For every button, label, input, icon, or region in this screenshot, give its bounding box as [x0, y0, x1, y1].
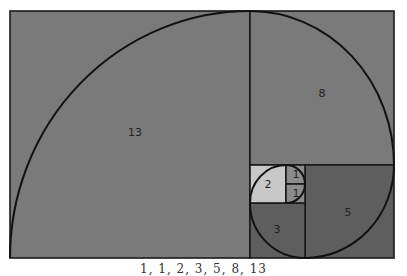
square-label: 1	[293, 187, 300, 200]
sequence-caption: 1, 1, 2, 3, 5, 8, 13	[0, 262, 407, 276]
square-label: 5	[345, 206, 352, 219]
square-label: 13	[128, 126, 142, 139]
square-label: 1	[293, 168, 300, 181]
squares-group	[10, 11, 394, 258]
square-label: 2	[265, 178, 272, 191]
square-label: 3	[274, 223, 281, 236]
square-label: 8	[319, 87, 326, 100]
